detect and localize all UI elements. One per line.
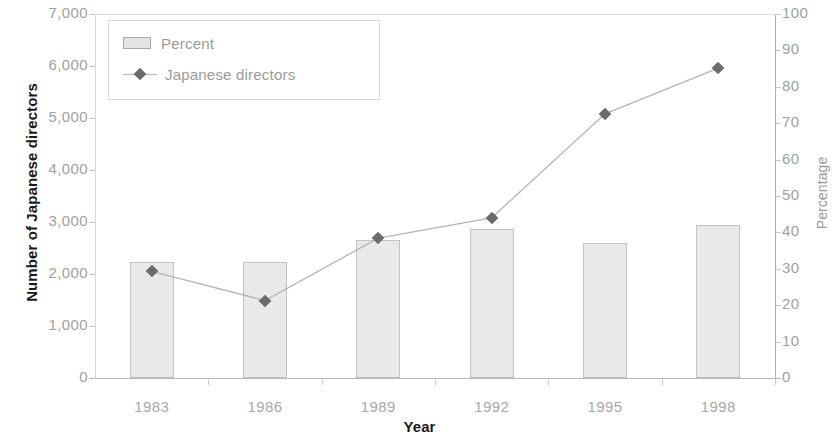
y-axis-left-tick: 1,000 [20, 316, 88, 333]
x-axis-tickmark [662, 379, 663, 385]
legend-bar-swatch-icon [123, 37, 151, 49]
x-axis-title: Year [0, 418, 839, 435]
y-axis-right-tick: 60 [782, 150, 839, 167]
x-axis-tick: 1992 [457, 398, 527, 415]
y-axis-right-tick-labels: 0102030405060708090100 [782, 0, 839, 446]
legend-label-percent: Percent [161, 35, 214, 52]
x-axis-tickmark [322, 379, 323, 385]
x-axis-tick: 1998 [683, 398, 753, 415]
y-axis-right-tick: 30 [782, 259, 839, 276]
y-axis-left-tick: 5,000 [20, 108, 88, 125]
legend-item-japanese-directors: Japanese directors [123, 62, 295, 86]
y-axis-right-tick: 80 [782, 77, 839, 94]
y-axis-right-tick: 10 [782, 332, 839, 349]
x-axis-tick: 1995 [570, 398, 640, 415]
x-axis-tick: 1986 [230, 398, 300, 415]
y-axis-left-tick: 4,000 [20, 160, 88, 177]
y-axis-right-tick: 40 [782, 222, 839, 239]
y-axis-left-tick-labels: 01,0002,0003,0004,0005,0006,0007,000 [20, 0, 88, 446]
y-axis-left-tick: 7,000 [20, 4, 88, 21]
y-axis-right-tick: 50 [782, 186, 839, 203]
legend-line-swatch-icon [123, 68, 157, 80]
y-axis-left-tick: 3,000 [20, 212, 88, 229]
x-axis-line [89, 378, 781, 379]
y-axis-right-tick: 90 [782, 40, 839, 57]
y-axis-right-tick: 20 [782, 295, 839, 312]
x-axis-tick-labels: 198319861989199219951998 [0, 390, 839, 420]
x-axis-tickmark [548, 379, 549, 385]
x-axis-tick: 1983 [117, 398, 187, 415]
y-axis-right-tick: 70 [782, 113, 839, 130]
y-axis-right-line [775, 14, 776, 379]
legend-item-percent: Percent [123, 31, 214, 55]
legend-label-japanese-directors: Japanese directors [165, 66, 295, 83]
x-axis-tickmark [775, 379, 776, 385]
y-axis-right-tick: 100 [782, 4, 839, 21]
x-axis-tickmark [435, 379, 436, 385]
chart-container: Number of Japanese directors Percentage … [0, 0, 839, 446]
legend-diamond-icon [134, 68, 147, 81]
x-axis-tick: 1989 [343, 398, 413, 415]
y-axis-left-tick: 2,000 [20, 264, 88, 281]
chart-legend: Percent Japanese directors [108, 20, 380, 100]
x-axis-tickmark [208, 379, 209, 385]
y-axis-right-tick: 0 [782, 368, 839, 385]
y-axis-left-tick: 0 [20, 368, 88, 385]
y-axis-left-tick: 6,000 [20, 56, 88, 73]
